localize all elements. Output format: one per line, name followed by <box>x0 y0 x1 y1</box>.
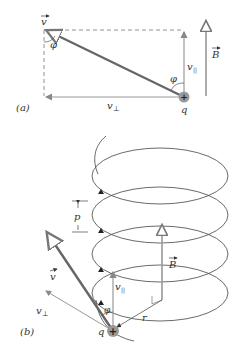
part-b-label: (b) <box>20 326 34 337</box>
svg-text:+: + <box>180 92 188 102</box>
v-perp-arrow-b <box>46 291 113 331</box>
charge-q-b: + <box>107 325 119 337</box>
v-perp-sub-b: ⊥ <box>42 310 49 318</box>
part-b: p + v v || v ⊥ φ B r q (b) <box>20 136 228 341</box>
v-label: v <box>41 16 47 27</box>
helical-motion-diagram: + v φ φ v || v ⊥ B q (a) <box>0 0 246 354</box>
part-a: + v φ φ v || v ⊥ B q (a) <box>16 16 220 115</box>
v-arrow <box>48 31 184 97</box>
v-arrow-b <box>48 234 113 331</box>
v-parallel-sub: || <box>193 66 197 74</box>
phi-label-top: φ <box>50 39 57 50</box>
phi-label-bottom: φ <box>170 73 177 84</box>
charge-q-a: + <box>179 92 190 103</box>
b-label-b: B <box>168 259 176 270</box>
b-label-a: B <box>211 49 219 60</box>
svg-text:+: + <box>109 326 117 337</box>
helix-direction-arrows <box>98 189 104 305</box>
pitch-label: p <box>74 211 81 222</box>
v-parallel-sub-b: || <box>121 286 125 294</box>
r-label: r <box>142 312 148 323</box>
radius-arrow <box>117 300 162 327</box>
q-label-a: q <box>181 104 187 115</box>
part-a-label: (a) <box>16 102 30 113</box>
q-label-b: q <box>98 326 104 337</box>
phi-label-b: φ <box>104 305 111 315</box>
v-label-b: v <box>50 271 56 282</box>
phi-arc-bottom <box>171 83 184 90</box>
v-perp-sub: ⊥ <box>113 105 120 113</box>
